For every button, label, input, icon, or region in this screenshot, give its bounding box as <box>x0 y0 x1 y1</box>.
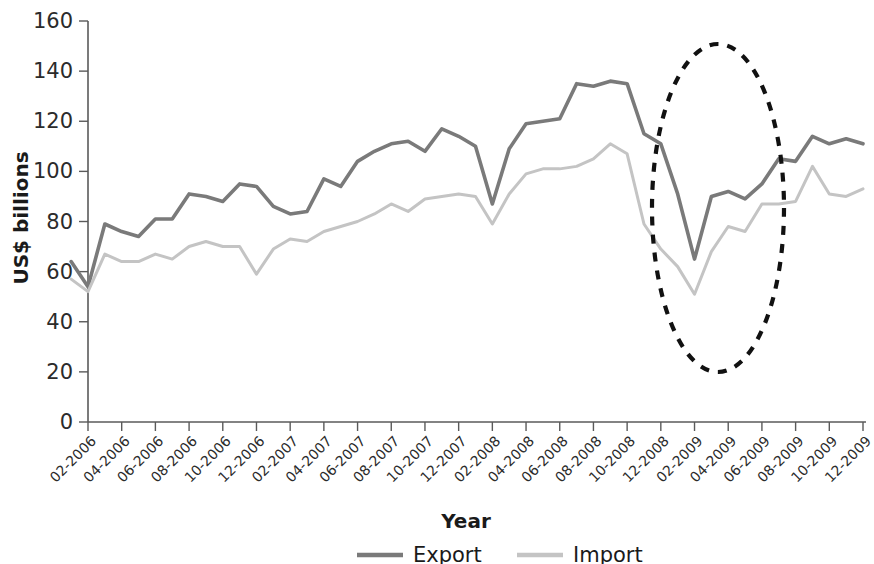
line-chart-figure: US$ billions 020406080100120140160 02-20… <box>0 0 874 564</box>
y-axis-tick-label: 80 <box>46 210 73 234</box>
y-axis-title: US$ billions <box>9 151 33 284</box>
y-axis-tick-label: 60 <box>46 260 73 284</box>
series-lines <box>71 81 863 294</box>
legend-label-export: Export <box>413 543 482 564</box>
y-axis-ticks: 020406080100120140160 <box>33 9 88 434</box>
y-axis-tick-label: 160 <box>33 9 73 33</box>
y-axis-tick-label: 140 <box>33 59 73 83</box>
y-axis-tick-label: 0 <box>60 410 73 434</box>
crisis-highlight-ellipse <box>652 44 784 372</box>
series-line-export <box>71 81 863 287</box>
y-axis-tick-label: 40 <box>46 310 73 334</box>
y-axis-tick-label: 100 <box>33 159 73 183</box>
chart-legend: ExportImport <box>357 543 643 564</box>
legend-label-import: Import <box>573 543 643 564</box>
y-axis-tick-label: 120 <box>33 109 73 133</box>
x-axis-ticks: 02-200604-200606-200608-200610-200612-20… <box>46 422 874 485</box>
y-axis-tick-label: 20 <box>46 360 73 384</box>
series-line-import <box>71 144 863 294</box>
x-axis-title: Year <box>440 509 491 533</box>
chart-container: US$ billions 020406080100120140160 02-20… <box>0 0 874 564</box>
